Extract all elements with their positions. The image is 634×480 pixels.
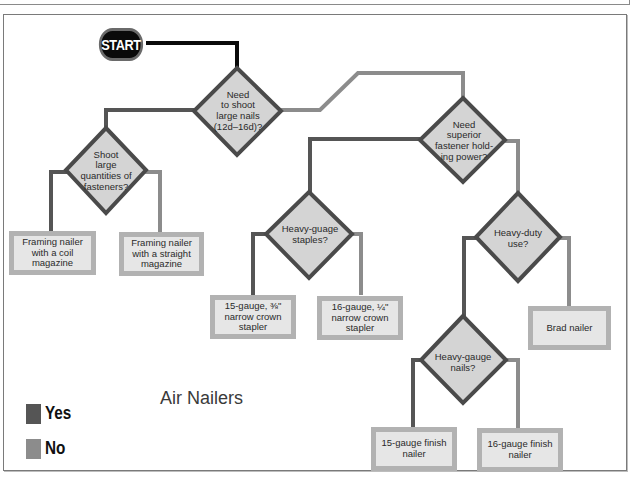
result-15-gauge-stapler: 15-gauge, ⅜" narrow crown stapler: [210, 295, 296, 339]
decision-diamond-heavy-duty: [476, 193, 560, 281]
line: Brad nailer: [547, 323, 593, 334]
decision-diamond-large-quantities: [66, 128, 146, 213]
decision-diamond-large-nails: [194, 68, 281, 155]
result-15-gauge-finish-nailer: 15-gauge finish nailer: [371, 427, 457, 471]
result-brad-nailer: Brad nailer: [528, 306, 611, 350]
connector-yes: [106, 110, 195, 128]
legend-yes: Yes: [26, 403, 76, 424]
start-connector: [146, 43, 237, 68]
legend-no: No: [26, 438, 69, 459]
connector-no: [280, 73, 463, 110]
connector-yes: [253, 234, 268, 295]
connector-yes: [413, 360, 423, 428]
decision-diamond-heavy-staples: [266, 192, 352, 278]
result-text: 15-gauge finish nailer: [376, 432, 452, 466]
line: Framing nailer: [22, 237, 83, 248]
connector-no: [505, 360, 518, 428]
connector-no: [505, 141, 518, 192]
result-16-gauge-stapler: 16-gauge, ¼" narrow crown stapler: [317, 296, 403, 340]
result-text: Framing nailer with a coil magazine: [14, 236, 91, 270]
result-text: 15-gauge, ⅜" narrow crown stapler: [215, 300, 291, 334]
line: stapler: [346, 323, 375, 334]
line: stapler: [239, 322, 268, 333]
connector-no: [144, 172, 160, 232]
line: 16-gauge, ¼": [332, 302, 389, 313]
line: nailer: [508, 450, 531, 461]
decision-diamond-holding-power: [420, 98, 505, 182]
line: Framing nailer: [131, 238, 192, 249]
connector-no: [352, 234, 361, 295]
line: nailer: [402, 449, 425, 460]
legend-swatch-no: [26, 439, 41, 459]
result-framing-nailer-straight: Framing nailer with a straight magazine: [119, 232, 204, 276]
connector-yes: [464, 238, 477, 316]
line: magazine: [141, 259, 182, 270]
result-framing-nailer-coil: Framing nailer with a coil magazine: [9, 231, 96, 275]
result-text: Brad nailer: [533, 311, 606, 345]
line: 15-gauge, ⅜": [225, 301, 282, 312]
connector-yes: [310, 139, 422, 192]
legend-swatch-yes: [26, 404, 41, 424]
start-node: START: [99, 28, 143, 61]
connector-yes: [51, 172, 68, 232]
decision-diamond-heavy-nails: [421, 316, 506, 403]
result-text: 16-gauge finish nailer: [482, 433, 558, 467]
legend-label-no: No: [45, 438, 65, 459]
result-text: Framing nailer with a straight magazine: [124, 237, 199, 271]
result-16-gauge-finish-nailer: 16-gauge finish nailer: [477, 428, 563, 472]
connector-no: [560, 238, 569, 307]
line: magazine: [32, 258, 73, 269]
diagram-title: Air Nailers: [160, 388, 243, 409]
legend-label-yes: Yes: [45, 403, 71, 424]
result-text: 16-gauge, ¼" narrow crown stapler: [322, 301, 398, 335]
